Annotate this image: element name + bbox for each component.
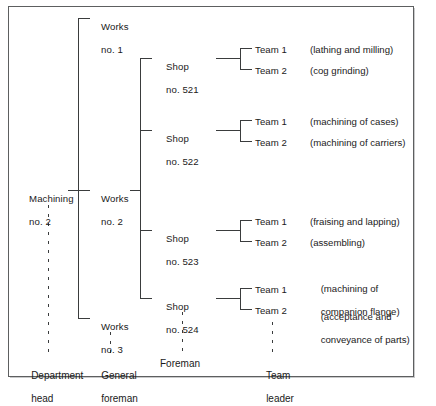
desc-team-522-2: (machining of carriers) [310,137,405,148]
node-shop-524-line2: no. 524 [166,324,199,335]
node-works-2-line2: no. 2 [101,216,123,227]
node-shop-521-line2: no. 521 [166,84,199,95]
node-shop-521: Shop no. 521 [155,50,199,107]
node-team-524-1: Team 1 [255,284,287,295]
desc-team-521-2: (cog grinding) [310,65,369,76]
node-works-2-line1: Works [101,193,129,204]
role-team-leader-line1: Team [266,370,290,381]
desc-team-524-1-line1: (machining of [321,283,379,294]
node-works-2: Works no. 2 [90,182,129,239]
node-team-521-1: Team 1 [255,44,287,55]
node-works-3-line2: no. 3 [101,344,123,355]
node-shop-524: Shop no. 524 [155,290,199,347]
node-works-3-line1: Works [101,321,129,332]
node-shop-523: Shop no. 523 [155,222,199,279]
role-team-leader-line2: leader [266,393,294,404]
desc-team-522-1: (machining of cases) [310,116,399,127]
node-works-1-line1: Works [101,21,129,32]
node-team-522-1: Team 1 [255,116,287,127]
node-team-524-2: Team 2 [255,305,287,316]
role-team-leader: Team leader [255,358,294,406]
node-shop-523-line1: Shop [166,233,189,244]
desc-team-523-1: (fraising and lapping) [310,216,400,227]
node-shop-521-line1: Shop [166,61,189,72]
node-team-523-2: Team 2 [255,237,287,248]
desc-team-524-2: (acceptance and conveyance of parts) [310,300,410,357]
node-shop-522: Shop no. 522 [155,122,199,179]
node-shop-523-line2: no. 523 [166,256,199,267]
node-works-1: Works no. 1 [90,10,129,67]
role-general-foreman-line1: General [101,370,137,381]
node-shop-522-line2: no. 522 [166,156,199,167]
desc-team-523-2: (assembling) [310,237,365,248]
node-machining: Machining no. 2 [18,182,74,239]
node-machining-line2: no. 2 [29,216,51,227]
role-department-head-line2: head [31,393,53,404]
desc-team-521-1: (lathing and milling) [310,44,393,55]
node-team-523-1: Team 1 [255,216,287,227]
node-works-1-line2: no. 1 [101,44,123,55]
node-team-521-2: Team 2 [255,65,287,76]
node-machining-line1: Machining [29,193,74,204]
node-shop-522-line1: Shop [166,133,189,144]
node-team-522-2: Team 2 [255,137,287,148]
desc-team-524-2-line2: conveyance of parts) [321,334,410,345]
desc-team-524-2-line1: (acceptance and [321,311,392,322]
role-department-head: Department head [20,358,83,406]
role-foreman: Foreman [160,358,200,370]
role-general-foreman-line2: foreman [101,393,138,404]
role-general-foreman: General foreman [90,358,138,406]
node-shop-524-line1: Shop [166,301,189,312]
role-department-head-line1: Department [31,370,83,381]
